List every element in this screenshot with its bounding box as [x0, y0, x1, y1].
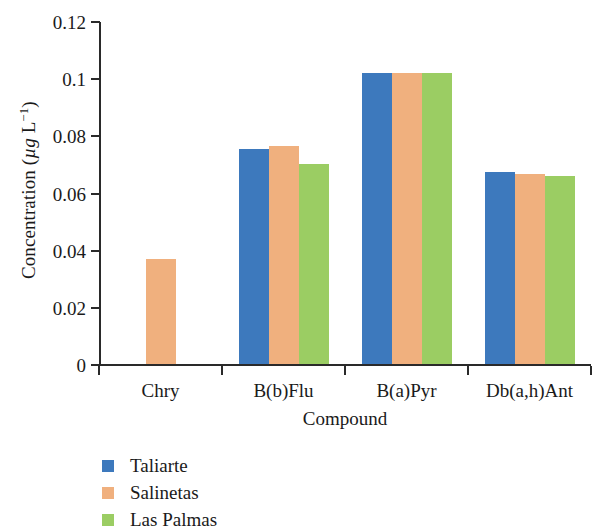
legend-swatch-icon — [102, 487, 114, 499]
legend-label: Las Palmas — [130, 510, 217, 529]
bar-salinetas-BaPyr — [392, 73, 422, 365]
bar-taliarte-DbahAnt — [485, 172, 515, 366]
x-category-label: B(a)Pyr — [337, 380, 477, 402]
y-tick-label: 0.1 — [0, 70, 86, 89]
y-axis-title-suffix: ) — [18, 101, 39, 107]
x-tick-mark — [221, 366, 223, 375]
x-tick-mark — [467, 366, 469, 375]
legend-swatch-icon — [102, 514, 114, 526]
bar-las-palmas-DbahAnt — [545, 176, 575, 365]
y-tick-label: 0.08 — [0, 127, 86, 146]
x-tick-mark — [98, 366, 100, 375]
y-tick-label: 0.02 — [0, 299, 86, 318]
bar-las-palmas-BaPyr — [422, 73, 452, 365]
y-tick-label: 0.04 — [0, 242, 86, 261]
x-category-label: Chry — [91, 380, 231, 402]
bar-taliarte-BaPyr — [362, 73, 392, 365]
plot-area — [99, 22, 591, 365]
legend-item-salinetas: Salinetas — [102, 479, 217, 506]
y-tick-label: 0.12 — [0, 13, 86, 32]
legend-label: Salinetas — [130, 483, 199, 502]
bar-las-palmas-BbFlu — [299, 164, 329, 366]
legend-item-taliarte: Taliarte — [102, 452, 217, 479]
bar-salinetas-Chry — [146, 259, 176, 365]
bar-salinetas-BbFlu — [269, 146, 299, 365]
x-axis-title: Compound — [99, 408, 591, 430]
bar-taliarte-BbFlu — [239, 149, 269, 365]
y-axis-unit-exponent: −1 — [16, 108, 31, 122]
chart-legend: TaliarteSalinetasLas Palmas — [102, 452, 217, 532]
chart-figure: Concentration (µg L−1) 00.020.040.060.08… — [0, 0, 602, 532]
x-tick-mark — [344, 366, 346, 375]
x-tick-mark — [590, 366, 592, 375]
bar-salinetas-DbahAnt — [515, 174, 545, 365]
legend-item-las-palmas: Las Palmas — [102, 506, 217, 532]
x-category-label: B(b)Flu — [214, 380, 354, 402]
legend-swatch-icon — [102, 460, 114, 472]
y-tick-label: 0.06 — [0, 185, 86, 204]
y-axis-title-prefix: Concentration ( — [18, 159, 39, 279]
x-category-label: Db(a,h)Ant — [460, 380, 600, 402]
legend-label: Taliarte — [130, 456, 188, 475]
y-tick-label: 0 — [0, 356, 86, 375]
